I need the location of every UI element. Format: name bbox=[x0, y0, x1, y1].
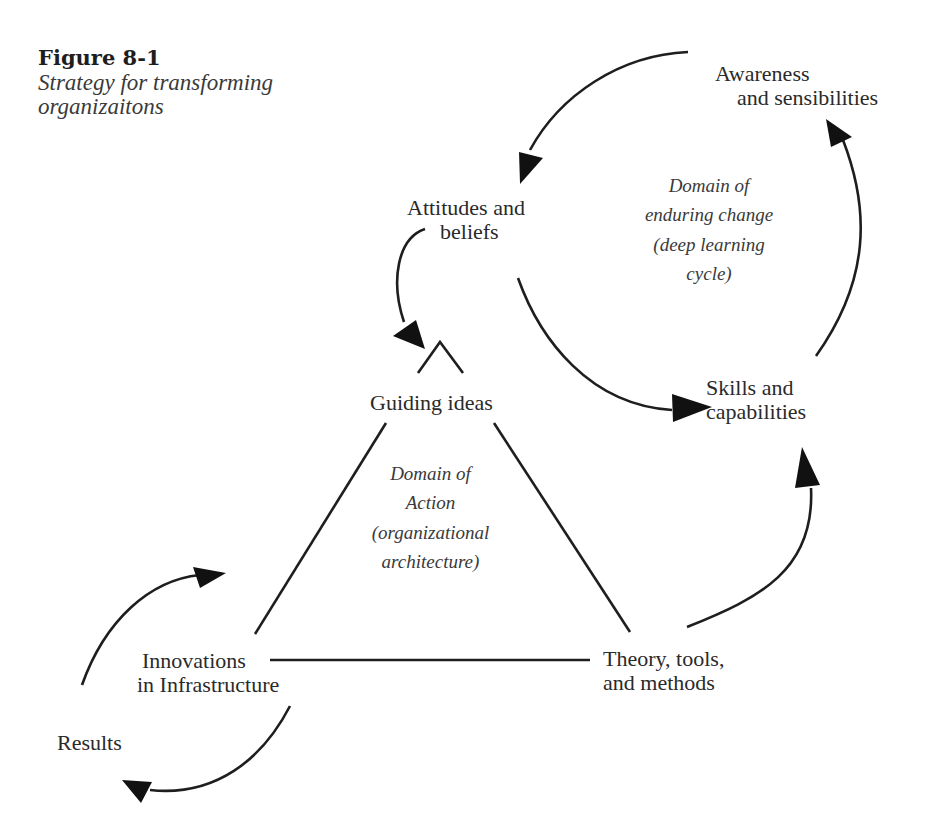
domain-action-line2: Action bbox=[343, 488, 518, 517]
node-results: Results bbox=[57, 731, 122, 755]
arrow-innovations-to-results bbox=[150, 706, 290, 791]
domain-enduring-line1: Domain of bbox=[614, 171, 804, 200]
strategy-diagram: Figure 8-1 Strategy for transforming org… bbox=[0, 0, 942, 831]
domain-enduring-line2: enduring change bbox=[614, 200, 804, 229]
node-innovations-line2: in Infrastructure bbox=[137, 673, 279, 697]
domain-enduring-line4: cycle) bbox=[614, 259, 804, 288]
node-guiding-ideas: Guiding ideas bbox=[370, 391, 493, 415]
node-guiding-line1: Guiding ideas bbox=[370, 391, 493, 415]
node-awareness-line2: and sensibilities bbox=[715, 86, 878, 110]
figure-number: Figure 8-1 bbox=[38, 47, 161, 70]
figure-caption: Strategy for transforming organizaitons bbox=[38, 71, 278, 119]
node-skills-line2: capabilities bbox=[706, 400, 806, 424]
node-attitudes: Attitudes and beliefs bbox=[407, 196, 525, 244]
triangle-apex bbox=[418, 342, 463, 373]
arrow-skills-to-awareness bbox=[816, 140, 861, 356]
arrowhead-icon bbox=[193, 567, 226, 588]
domain-enduring-change: Domain of enduring change (deep learning… bbox=[614, 171, 804, 289]
node-awareness: Awareness and sensibilities bbox=[715, 62, 878, 110]
arrowhead-icon bbox=[795, 447, 820, 488]
domain-action-line4: architecture) bbox=[343, 547, 518, 576]
arrowhead-icon bbox=[393, 320, 425, 349]
node-results-line1: Results bbox=[57, 731, 122, 755]
arrowhead-icon bbox=[519, 152, 543, 184]
node-innovations: Innovations in Infrastructure bbox=[137, 649, 279, 697]
arrowhead-icon bbox=[826, 119, 852, 147]
node-innovations-line1: Innovations bbox=[137, 649, 279, 673]
arrow-attitudes-to-skills bbox=[518, 278, 672, 410]
node-skills-line1: Skills and bbox=[706, 376, 806, 400]
node-theory-line2: and methods bbox=[603, 671, 724, 695]
node-attitudes-line1: Attitudes and bbox=[407, 196, 525, 220]
arrowhead-icon bbox=[122, 780, 152, 803]
node-attitudes-line2: beliefs bbox=[407, 220, 525, 244]
domain-action-line3: (organizational bbox=[343, 518, 518, 547]
domain-enduring-line3: (deep learning bbox=[614, 230, 804, 259]
node-awareness-line1: Awareness bbox=[715, 62, 878, 86]
arrow-theory-to-skills bbox=[687, 488, 811, 627]
domain-action-line1: Domain of bbox=[343, 459, 518, 488]
node-skills: Skills and capabilities bbox=[706, 376, 806, 424]
node-theory-line1: Theory, tools, bbox=[603, 647, 724, 671]
arrow-awareness-to-attitudes bbox=[530, 52, 688, 150]
domain-action: Domain of Action (organizational archite… bbox=[343, 459, 518, 577]
node-theory: Theory, tools, and methods bbox=[603, 647, 724, 695]
